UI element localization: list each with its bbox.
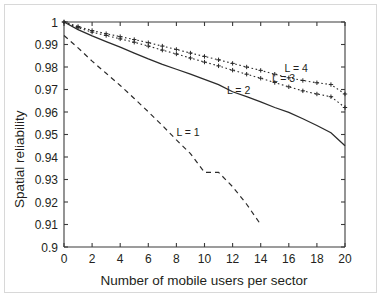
x-tick-label: 10 [198, 252, 212, 266]
series-label-l1: L = 1 [176, 126, 199, 138]
x-tick-label: 12 [226, 252, 240, 266]
spatial-reliability-line-chart: L = 1L = 2L = 3L = 4 0.90.910.920.930.94… [0, 0, 381, 306]
x-tick-label: 16 [282, 252, 296, 266]
y-tick-label: 0.91 [35, 218, 59, 232]
curves-group [64, 22, 345, 225]
y-tick-label: 1 [51, 16, 58, 30]
y-tick-label: 0.96 [35, 106, 59, 120]
tick-labels-group: 0.90.910.920.930.940.950.960.970.980.991… [35, 16, 352, 267]
x-tick-label: 6 [145, 252, 152, 266]
x-tick-label: 0 [61, 252, 68, 266]
y-tick-label: 0.97 [35, 83, 59, 97]
x-tick-label: 8 [173, 252, 180, 266]
y-axis-title: Spatial reliability [12, 110, 27, 208]
y-tick-label: 0.99 [35, 38, 59, 52]
series-label-l2: L = 2 [227, 84, 250, 96]
y-tick-label: 0.9 [41, 241, 58, 255]
x-tick-label: 20 [338, 252, 352, 266]
y-tick-label: 0.94 [35, 151, 59, 165]
x-tick-label: 18 [310, 252, 324, 266]
plot-container: L = 1L = 2L = 3L = 4 0.90.910.920.930.94… [0, 0, 381, 306]
y-tick-label: 0.92 [35, 196, 59, 210]
x-axis-title: Number of mobile users per sector [100, 273, 308, 288]
x-tick-label: 2 [89, 252, 96, 266]
y-tick-label: 0.98 [35, 61, 59, 75]
series-line-l2 [64, 22, 345, 146]
chart-figure: L = 1L = 2L = 3L = 4 0.90.910.920.930.94… [0, 0, 381, 306]
x-tick-label: 4 [117, 252, 124, 266]
y-tick-label: 0.95 [35, 128, 59, 142]
series-label-l4: L = 4 [285, 62, 308, 74]
y-tick-label: 0.93 [35, 173, 59, 187]
x-tick-label: 14 [254, 252, 268, 266]
